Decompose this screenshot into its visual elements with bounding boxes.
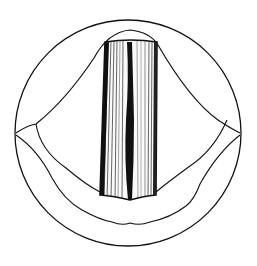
left-fold-line	[36, 124, 100, 192]
illustration-canvas	[0, 0, 257, 266]
right-outer-fold-line	[186, 135, 240, 206]
right-fold-line	[156, 120, 227, 192]
central-column	[100, 40, 157, 200]
laryngoscope-view-drawing	[0, 0, 257, 266]
